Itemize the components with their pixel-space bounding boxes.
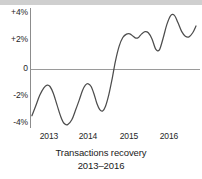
chart-title: Transactions recovery — [0, 147, 202, 158]
x-tick-label: 2013 — [33, 131, 65, 141]
chart-figure: +4% +2% 0 -2% -4% 2013 2014 2015 2016 Tr… — [0, 0, 202, 179]
chart-subtitle: 2013–2016 — [0, 160, 202, 171]
y-tick-label: -2% — [2, 91, 28, 100]
y-tick-label: +4% — [2, 8, 28, 17]
x-tick-label: 2015 — [113, 131, 145, 141]
y-tick-label: +2% — [2, 35, 28, 44]
y-tick-label: -4% — [2, 118, 28, 127]
y-tick-label: 0 — [2, 64, 28, 73]
x-tick-label: 2016 — [153, 131, 185, 141]
x-tick-label: 2014 — [72, 131, 104, 141]
